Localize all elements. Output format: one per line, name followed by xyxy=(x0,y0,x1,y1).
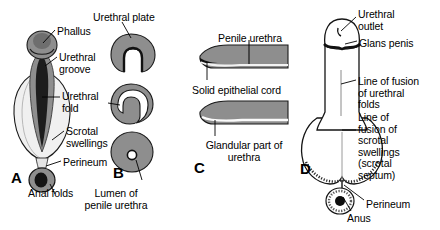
anal-opening xyxy=(35,173,48,188)
panel-letter-a: A xyxy=(11,170,22,185)
section-urethral-plate xyxy=(111,34,155,72)
label-urethral-fold: Urethral fold xyxy=(62,91,99,114)
label-urethral-outlet: Urethral outlet xyxy=(358,9,395,32)
label-phallus: Phallus xyxy=(57,26,91,38)
label-lumen-of-penile-urethra: Lumen of penile urethra xyxy=(66,188,166,211)
label-urethral-groove: Urethral groove xyxy=(59,52,96,75)
perineum-bridge xyxy=(36,158,48,168)
glans-penis-shape xyxy=(325,19,360,49)
phallus-shading xyxy=(33,33,51,49)
label-urethral-plate: Urethral plate xyxy=(93,12,155,24)
label-glans-penis: Glans penis xyxy=(359,38,413,50)
label-line-of-fusion-scrotal-swellings: Line of fusion of scrotal swellings (scr… xyxy=(358,112,400,181)
label-penile-urethra: Penile urethra xyxy=(218,33,282,45)
anatomical-figure: Phallus Urethral groove Urethral fold Sc… xyxy=(0,0,440,230)
panel-letter-c: C xyxy=(194,160,205,175)
label-perineum-a: Perineum xyxy=(63,157,107,169)
label-solid-epithelial-cord: Solid epithelial cord xyxy=(192,85,281,97)
label-anus: Anus xyxy=(347,213,371,225)
section-urethral-fold xyxy=(111,84,153,124)
panel-letter-b: B xyxy=(113,165,124,180)
label-line-of-fusion-urethral-folds: Line of fusion of urethral folds xyxy=(358,76,419,111)
urethral-plate-groove xyxy=(124,48,142,72)
leader-perineum xyxy=(46,161,61,166)
panel-letter-d: D xyxy=(300,161,311,176)
panel-b-artwork xyxy=(108,22,155,180)
penile-urethra-lumen xyxy=(127,150,136,159)
label-perineum-d: Perineum xyxy=(366,199,410,211)
label-scrotal-swellings: Scrotal swellings xyxy=(66,126,108,149)
label-glandular-part-of-urethra: Glandular part of urethra xyxy=(190,140,298,163)
